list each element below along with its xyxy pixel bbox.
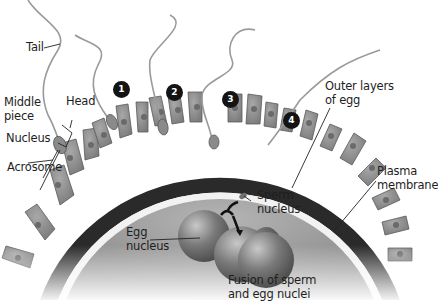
label-egg-nucleus-1: Egg	[126, 226, 147, 239]
label-sperm-nucleus-2: nucleus	[257, 203, 300, 216]
label-middle-piece-1: Middle	[4, 96, 41, 109]
label-acrosome: Acrosome	[7, 161, 62, 174]
label-head: Head	[66, 95, 95, 108]
sperm-tails	[28, 0, 380, 145]
label-egg-nucleus-2: nucleus	[126, 240, 169, 253]
step-badge-2: 2	[166, 84, 183, 101]
label-outer-layers-2: of egg	[325, 94, 360, 107]
label-fusion-2: and egg nuclei	[228, 288, 310, 301]
label-nucleus: Nucleus	[6, 132, 50, 145]
label-plasma-membrane-2: membrane	[377, 179, 438, 192]
label-fusion-1: Fusion of sperm	[228, 274, 316, 287]
step-badge-1: 1	[113, 81, 130, 98]
step-badge-4: 4	[283, 112, 300, 129]
label-tail: Tail	[26, 41, 44, 54]
label-sperm-nucleus-1: Sperm	[257, 189, 293, 202]
label-outer-layers-1: Outer layers	[325, 80, 394, 93]
label-middle-piece-2: piece	[4, 110, 34, 123]
step-badge-3: 3	[222, 91, 239, 108]
label-plasma-membrane-1: Plasma	[377, 165, 417, 178]
